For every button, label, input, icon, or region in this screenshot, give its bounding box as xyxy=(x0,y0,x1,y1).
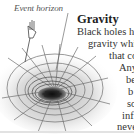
body-line: gravity whi xyxy=(88,38,134,50)
body-line: Black holes hav xyxy=(77,26,134,38)
body-line: be xyxy=(126,74,134,86)
body-line: Any xyxy=(119,62,134,74)
body-line: so xyxy=(127,98,134,110)
body-line: that co xyxy=(109,50,134,62)
section-heading: Gravity xyxy=(77,12,119,27)
page-divider xyxy=(0,131,134,133)
body-line: b xyxy=(128,86,133,98)
book-page: Event horizon Gravity Black holes hav gr… xyxy=(0,0,134,138)
event-horizon-label: Event horizon xyxy=(14,3,63,13)
